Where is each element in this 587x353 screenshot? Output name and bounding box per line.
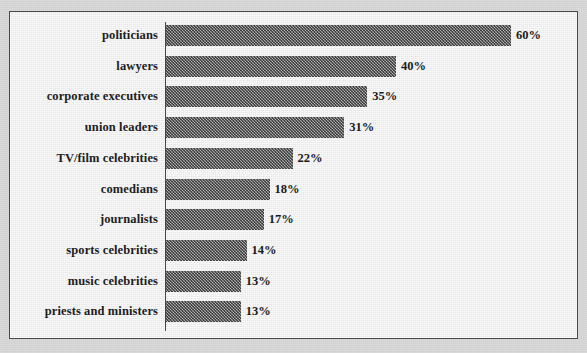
bar xyxy=(166,271,241,292)
bar-row: journalists17% xyxy=(10,209,577,230)
bar-track: 22% xyxy=(166,148,577,169)
bar xyxy=(166,25,511,46)
bar-category-label: music celebrities xyxy=(10,271,158,292)
bar xyxy=(166,240,247,261)
bar-category-label: politicians xyxy=(10,25,158,46)
bar xyxy=(166,148,293,169)
bar xyxy=(166,179,270,200)
bar-value-label: 22% xyxy=(298,148,323,169)
bar-category-label: TV/film celebrities xyxy=(10,148,158,169)
bar-row: comedians18% xyxy=(10,179,577,200)
bar-row: politicians60% xyxy=(10,25,577,46)
bar-category-label: comedians xyxy=(10,179,158,200)
bar-value-label: 60% xyxy=(516,25,541,46)
bar xyxy=(166,56,396,77)
bar-track: 14% xyxy=(166,240,577,261)
bar-track: 40% xyxy=(166,56,577,77)
chart-title-clipped xyxy=(0,0,587,11)
bar-track: 17% xyxy=(166,209,577,230)
bar-row: music celebrities13% xyxy=(10,271,577,292)
bar-track: 13% xyxy=(166,301,577,322)
bar-category-label: priests and ministers xyxy=(10,301,158,322)
bar-row: TV/film celebrities22% xyxy=(10,148,577,169)
bar-value-label: 18% xyxy=(275,179,300,200)
bar xyxy=(166,301,241,322)
bar-track: 35% xyxy=(166,86,577,107)
bar-category-label: journalists xyxy=(10,209,158,230)
bar-track: 18% xyxy=(166,179,577,200)
bar xyxy=(166,86,367,107)
bar-chart-frame: politicians60%lawyers40%corporate execut… xyxy=(9,11,578,339)
bar-value-label: 14% xyxy=(252,240,277,261)
bar-row: lawyers40% xyxy=(10,56,577,77)
bar-category-label: union leaders xyxy=(10,117,158,138)
bar-category-label: corporate executives xyxy=(10,86,158,107)
bar-track: 31% xyxy=(166,117,577,138)
bar-row: union leaders31% xyxy=(10,117,577,138)
bar-category-label: sports celebrities xyxy=(10,240,158,261)
bar-row: sports celebrities14% xyxy=(10,240,577,261)
bar-row: corporate executives35% xyxy=(10,86,577,107)
bar-value-label: 13% xyxy=(246,271,271,292)
bar-row: priests and ministers13% xyxy=(10,301,577,322)
bar-category-label: lawyers xyxy=(10,56,158,77)
bar xyxy=(166,209,264,230)
bar xyxy=(166,117,344,138)
bar-value-label: 40% xyxy=(401,56,426,77)
bar-value-label: 13% xyxy=(246,301,271,322)
plot-area: politicians60%lawyers40%corporate execut… xyxy=(10,12,577,338)
bar-value-label: 31% xyxy=(349,117,374,138)
bar-track: 13% xyxy=(166,271,577,292)
bar-track: 60% xyxy=(166,25,577,46)
bar-value-label: 17% xyxy=(269,209,294,230)
bar-value-label: 35% xyxy=(372,86,397,107)
